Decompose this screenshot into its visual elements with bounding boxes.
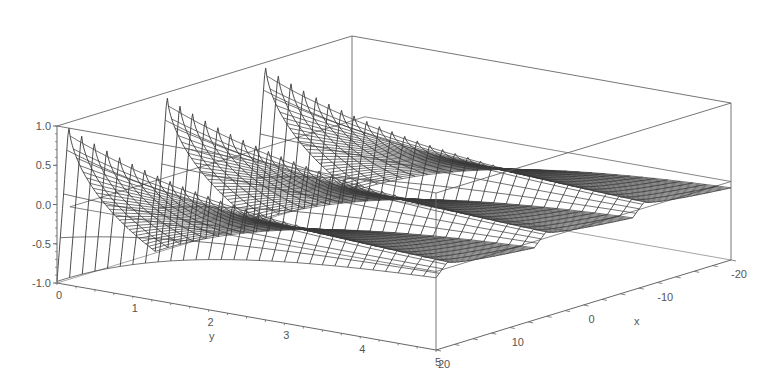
x-minor-tick bbox=[473, 339, 478, 340]
z-tick-label: 0.5 bbox=[36, 159, 51, 171]
y-tick-label: 0 bbox=[56, 289, 62, 301]
x-tick-label: -10 bbox=[657, 291, 673, 303]
x-minor-tick bbox=[565, 311, 570, 312]
x-minor-tick bbox=[620, 294, 625, 295]
z-tick-label: -1.0 bbox=[32, 277, 51, 289]
x-minor-tick bbox=[491, 333, 496, 334]
x-minor-tick bbox=[584, 305, 589, 306]
y-tick-label: 1 bbox=[132, 302, 138, 314]
x-minor-tick bbox=[528, 322, 533, 323]
x-minor-tick bbox=[713, 266, 718, 267]
x-minor-tick bbox=[602, 299, 607, 300]
x-axis-label: x bbox=[634, 315, 640, 327]
surface-plot: 1.00.50.0-0.5-1.0 012345 20100-10-20 y x bbox=[0, 0, 781, 385]
x-minor-tick bbox=[639, 288, 644, 289]
x-minor-tick bbox=[657, 283, 662, 284]
z-axis: 1.00.50.0-0.5-1.0 bbox=[32, 120, 57, 289]
x-axis: 20100-10-20 bbox=[436, 260, 747, 370]
x-tick-label: 10 bbox=[512, 336, 524, 348]
x-minor-tick bbox=[547, 316, 552, 317]
x-minor-tick bbox=[731, 260, 736, 261]
mesh-line bbox=[436, 188, 731, 278]
y-tick-label: 3 bbox=[283, 329, 289, 341]
z-tick-label: -0.5 bbox=[32, 238, 51, 250]
y-tick-label: 4 bbox=[359, 343, 365, 355]
x-minor-tick bbox=[436, 350, 441, 351]
x-minor-tick bbox=[676, 277, 681, 278]
mesh-line bbox=[57, 260, 436, 282]
x-minor-tick bbox=[454, 344, 459, 345]
box-edge bbox=[352, 36, 731, 103]
x-minor-tick bbox=[694, 271, 699, 272]
z-tick-label: 0.0 bbox=[36, 199, 51, 211]
x-minor-tick bbox=[510, 328, 515, 329]
x-tick-label: 0 bbox=[588, 313, 594, 325]
x-tick-label: 20 bbox=[438, 358, 450, 370]
z-tick-label: 1.0 bbox=[36, 120, 51, 132]
y-tick-label: 2 bbox=[208, 316, 214, 328]
x-tick-label: -20 bbox=[731, 268, 747, 280]
y-axis: 012345 bbox=[56, 283, 441, 368]
y-axis-label: y bbox=[209, 330, 215, 342]
surface-mesh bbox=[57, 68, 731, 281]
